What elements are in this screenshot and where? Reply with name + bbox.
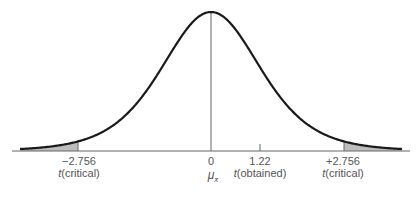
obtained-name: t(obtained) bbox=[234, 167, 287, 179]
left-critical-label: −2.756 t(critical) bbox=[58, 155, 100, 179]
mu-x-bar-label: μx̄ bbox=[208, 168, 219, 184]
right-critical-value: +2.756 bbox=[322, 155, 364, 167]
obtained-label: 1.22 t(obtained) bbox=[234, 155, 287, 179]
right-critical-label: +2.756 t(critical) bbox=[322, 155, 364, 179]
right-critical-name: t(critical) bbox=[322, 167, 364, 179]
obtained-value: 1.22 bbox=[234, 155, 287, 167]
zero-label: 0 bbox=[208, 155, 214, 167]
left-critical-name: t(critical) bbox=[58, 167, 100, 179]
left-critical-value: −2.756 bbox=[58, 155, 100, 167]
zero-value: 0 bbox=[208, 155, 214, 167]
